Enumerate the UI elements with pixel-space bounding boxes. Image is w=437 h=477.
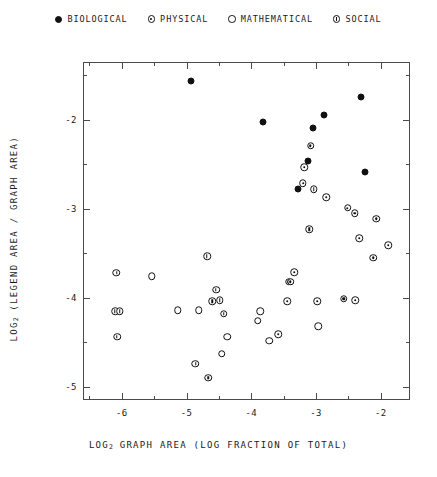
data-point-biological [294, 186, 301, 193]
data-point-mathematical [256, 307, 264, 315]
data-point-physical [300, 163, 308, 171]
y-minor-tick-right [406, 342, 410, 343]
filled-circle-marker-icon [55, 16, 62, 23]
y-major-tick-right [403, 209, 410, 210]
data-point-social [310, 186, 318, 194]
data-point-mathematical [218, 350, 226, 358]
y-tick-label: -3 [51, 204, 77, 214]
y-minor-tick-right [406, 253, 410, 254]
data-point-social [192, 360, 200, 368]
x-axis-title: LOG2 GRAPH AREA (LOG FRACTION OF TOTAL) [0, 440, 437, 451]
data-point-physical [291, 268, 299, 276]
data-point-social [113, 333, 121, 341]
legend-label: PHYSICAL [160, 14, 208, 24]
legend-entry-mathematical: MATHEMATICAL [228, 14, 313, 24]
legend-entry-physical: PHYSICAL [148, 14, 209, 24]
data-point-social [116, 307, 124, 315]
plot-area [83, 62, 410, 400]
data-point-social [208, 298, 216, 306]
y-tick-label: -4 [51, 293, 77, 303]
dotted-circle-marker-icon [148, 15, 156, 23]
data-point-biological [362, 169, 369, 176]
legend-entry-biological: BIOLOGICAL [55, 14, 127, 24]
x-tick-label: -4 [245, 408, 257, 418]
y-minor-tick [83, 342, 87, 343]
open-circle-marker-icon [228, 15, 236, 23]
data-point-biological [320, 111, 327, 118]
x-tick-label: -5 [181, 408, 193, 418]
data-point-biological [358, 93, 365, 100]
x-tick-label: -2 [375, 408, 387, 418]
scatter-plot-figure: BIOLOGICALPHYSICALMATHEMATICALSOCIAL LOG… [0, 0, 437, 477]
x-axis-title-pre: LOG [89, 440, 109, 450]
y-major-tick [83, 387, 90, 388]
y-major-tick [83, 298, 90, 299]
data-point-social [212, 286, 220, 294]
legend-entry-social: SOCIAL [333, 14, 382, 24]
x-major-tick-top [122, 62, 123, 69]
data-point-social [306, 226, 314, 234]
data-point-mathematical [174, 307, 182, 315]
barred-circle-marker-icon [333, 15, 341, 23]
x-axis-title-post: GRAPH AREA (LOG FRACTION OF TOTAL) [113, 440, 348, 450]
y-major-tick-right [403, 298, 410, 299]
x-minor-tick [284, 396, 285, 400]
data-point-physical [284, 298, 292, 306]
data-point-mathematical [195, 307, 203, 315]
data-point-physical [299, 179, 307, 187]
x-major-tick [316, 393, 317, 400]
data-point-physical [322, 194, 330, 202]
y-axis-title: LOG2 (LEGEND AREA / GRAPH AREA) [2, 0, 28, 477]
x-minor-tick-top [154, 62, 155, 66]
x-minor-tick-top [348, 62, 349, 66]
x-major-tick-top [381, 62, 382, 69]
data-point-physical [370, 254, 378, 262]
y-major-tick [83, 209, 90, 210]
data-point-physical [372, 215, 380, 223]
data-point-physical [351, 210, 359, 218]
data-point-social [220, 310, 228, 318]
data-point-social [216, 297, 224, 305]
data-point-mathematical [315, 323, 323, 331]
data-point-mathematical [223, 333, 231, 341]
x-minor-tick-top [284, 62, 285, 66]
y-tick-label: -2 [51, 115, 77, 125]
legend-label: BIOLOGICAL [67, 14, 127, 24]
data-point-biological [187, 77, 194, 84]
x-minor-tick [89, 396, 90, 400]
data-point-physical [385, 242, 393, 250]
x-major-tick [251, 393, 252, 400]
x-minor-tick-top [219, 62, 220, 66]
data-point-biological [309, 124, 316, 131]
x-major-tick-top [187, 62, 188, 69]
y-axis-title-subscript: 2 [13, 317, 21, 321]
chart-legend: BIOLOGICALPHYSICALMATHEMATICALSOCIAL [0, 14, 437, 24]
y-major-tick-right [403, 120, 410, 121]
data-point-social [203, 252, 211, 260]
data-point-social [205, 374, 213, 382]
legend-label: SOCIAL [345, 14, 381, 24]
data-point-mathematical [265, 337, 273, 345]
x-tick-label: -3 [310, 408, 322, 418]
data-point-biological [259, 118, 266, 125]
y-minor-tick-right [406, 75, 410, 76]
x-minor-tick-top [89, 62, 90, 66]
data-point-physical [344, 204, 352, 212]
x-minor-tick [348, 396, 349, 400]
x-major-tick [187, 393, 188, 400]
x-major-tick-top [251, 62, 252, 69]
data-points-layer [84, 63, 409, 399]
y-major-tick-right [403, 387, 410, 388]
data-point-social [113, 269, 121, 277]
x-major-tick [381, 393, 382, 400]
x-tick-label: -6 [116, 408, 128, 418]
data-point-physical [287, 278, 295, 286]
data-point-physical [352, 297, 360, 305]
data-point-physical [275, 331, 283, 339]
data-point-physical [340, 295, 348, 303]
data-point-physical [313, 298, 321, 306]
x-major-tick [122, 393, 123, 400]
y-minor-tick [83, 75, 87, 76]
y-major-tick [83, 120, 90, 121]
x-minor-tick [219, 396, 220, 400]
